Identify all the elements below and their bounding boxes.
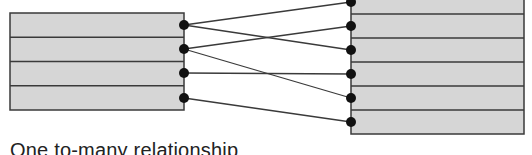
right-connection-dot xyxy=(346,21,356,31)
left-connection-dot xyxy=(179,68,189,78)
left-connection-dot xyxy=(179,93,189,103)
relationship-diagram xyxy=(0,0,532,155)
left-connection-dot xyxy=(179,44,189,54)
right-table xyxy=(351,0,524,134)
right-connection-dot xyxy=(346,117,356,127)
right-connection-dot xyxy=(346,45,356,55)
connector-line xyxy=(184,26,351,49)
connector-line xyxy=(184,98,351,122)
right-connection-dot xyxy=(346,93,356,103)
left-connection-dot xyxy=(179,20,189,30)
connector-line xyxy=(184,2,351,25)
right-connection-dot xyxy=(346,69,356,79)
diagram-caption: One to-many relationship xyxy=(10,139,238,155)
connector-line xyxy=(184,73,351,74)
